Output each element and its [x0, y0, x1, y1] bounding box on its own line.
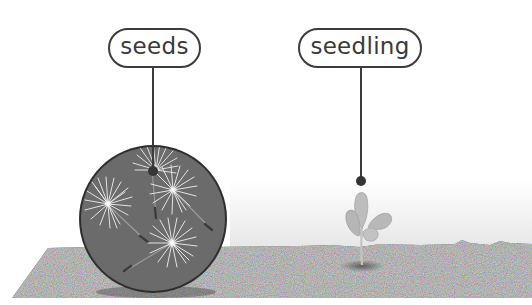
label-seeds: seeds [108, 28, 201, 68]
diagram-illustration [0, 0, 532, 305]
seedling-leader [356, 68, 366, 186]
label-seedling: seedling [298, 28, 422, 68]
life-cycle-diagram: seeds seedling [0, 0, 532, 305]
seedling-pointer-dot [356, 176, 366, 186]
seeds-pointer-dot [148, 166, 158, 176]
